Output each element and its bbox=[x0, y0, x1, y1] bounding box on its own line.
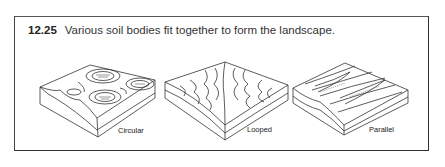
panel-label-circular: Circular bbox=[118, 126, 144, 135]
panel-label-parallel: Parallel bbox=[369, 125, 394, 134]
block-diagrams bbox=[0, 0, 445, 167]
panel-label-looped: Looped bbox=[247, 125, 272, 134]
